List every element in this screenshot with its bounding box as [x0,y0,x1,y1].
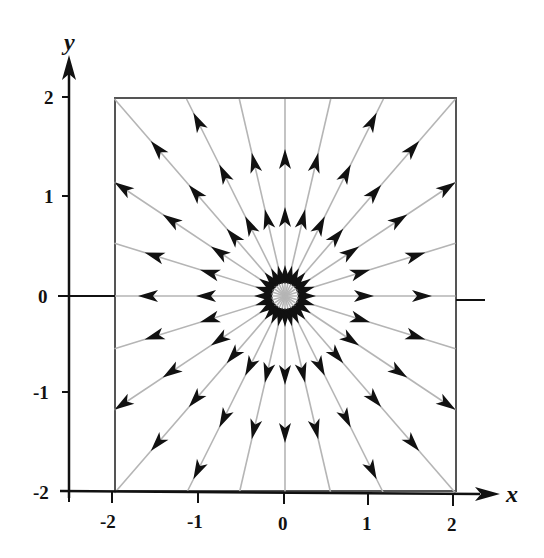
direction-arrow-icon [405,247,428,264]
x-tick-neg2: -2 [100,511,116,532]
x-tick-1: 1 [362,513,372,534]
direction-arrow-icon [240,355,260,378]
direction-arrow-icon [214,407,234,430]
direction-arrow-icon [362,110,382,133]
direction-arrow-icon [339,242,362,263]
trajectory-ray [285,296,383,493]
y-axis-label: y [61,29,75,55]
x-tick-0: 0 [278,513,288,534]
trajectory-ray [115,296,286,493]
direction-arrow-icon [188,459,208,482]
direction-arrow-icon [143,328,166,345]
trajectory-ray [285,99,456,296]
direction-arrow-icon [295,208,311,230]
y-tick-1: 1 [44,186,54,207]
direction-arrow-icon [188,110,208,133]
direction-arrow-icon [208,329,231,350]
y-tick-2: 2 [44,87,54,108]
trajectory-ray [187,99,285,296]
direction-arrow-icon [198,264,221,281]
direction-arrow-icon [246,418,262,440]
trajectory-ray [187,296,285,493]
direction-arrow-icon [259,362,275,384]
direction-arrow-icon [336,162,356,185]
x-ticks: -2 -1 0 1 2 [69,491,457,535]
direction-arrow-icon [308,151,324,173]
direction-arrow-icon [259,208,275,230]
x-tick-neg1: -1 [187,511,203,532]
direction-arrow-icon [308,418,324,440]
y-tick-0: 0 [38,286,48,307]
direction-arrow-icon [240,214,260,237]
direction-arrow-icon [387,362,410,383]
direction-arrow-icon [143,247,166,264]
direction-arrow-icon [362,459,382,482]
direction-arrow-icon [349,264,372,281]
direction-arrow-icon [295,362,311,384]
direction-arrow-icon [339,329,362,350]
trajectory-ray [285,99,383,296]
direction-arrow-icon [405,328,428,345]
trajectory-ray [285,296,456,493]
direction-arrow-icon [311,355,331,378]
direction-arrow-icon [349,311,372,328]
direction-arrow-icon [246,151,262,173]
direction-arrow-icon [387,209,410,230]
trajectory-ray [115,99,286,296]
direction-arrow-icon [311,214,331,237]
direction-arrow-icon [214,162,234,185]
y-tick-neg2: -2 [33,482,49,503]
y-tick-neg1: -1 [33,382,49,403]
direction-arrow-icon [198,311,221,328]
direction-arrow-icon [159,362,182,383]
direction-arrow-icon [208,242,231,263]
x-tick-2: 2 [447,514,457,535]
direction-arrow-icon [159,209,182,230]
direction-arrow-icon [336,407,356,430]
x-axis-label: x [505,481,518,507]
phase-portrait-figure: y x 2 1 0 -1 -2 -2 -1 0 1 2 [0,0,544,558]
